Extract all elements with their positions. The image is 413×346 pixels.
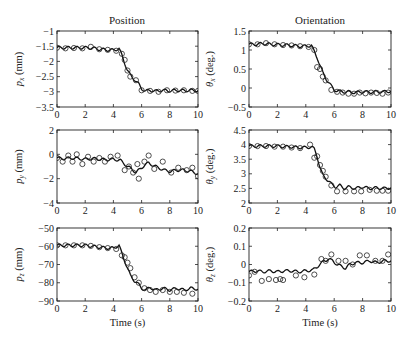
y-tick-label: 4 [241, 139, 246, 150]
data-point-measured [91, 159, 96, 164]
y-tick-label: 0 [241, 259, 246, 270]
data-point-measured [136, 176, 141, 181]
panel-px: 0246810−1−1.5−2−2.5−3−3.5px (mm) [13, 26, 203, 121]
y-tick-label: −2 [43, 56, 54, 67]
x-tick-label: 6 [332, 205, 337, 216]
data-point-measured [380, 188, 385, 193]
data-point-measured [135, 161, 140, 166]
data-point-measured [115, 153, 120, 158]
data-point-measured [346, 91, 351, 96]
y-tick-label: −3 [43, 86, 54, 97]
y-tick-label: −70 [38, 259, 54, 270]
x-tick-label: 8 [167, 303, 172, 314]
x-tick-label: 6 [139, 303, 144, 314]
data-point-measured [176, 165, 181, 170]
x-tick-label: 8 [360, 303, 365, 314]
y-tick-label: −60 [38, 241, 54, 252]
y-tick-label: −1 [43, 26, 54, 37]
x-tick-label: 4 [303, 205, 308, 216]
x-axis-label: Time (s) [110, 317, 146, 329]
data-point-measured [307, 142, 312, 147]
column-title-orientation: Orientation [295, 14, 346, 26]
x-tick-label: 10 [193, 205, 203, 216]
figure: Position Orientation 0246810−1−1.5−2−2.5… [0, 0, 413, 346]
data-point-measured [160, 159, 165, 164]
y-tick-label: −50 [38, 223, 54, 234]
x-tick-label: 10 [386, 303, 396, 314]
data-point-measured [174, 289, 179, 294]
data-point-measured [152, 166, 157, 171]
y-tick-label: −4 [43, 198, 54, 209]
x-tick-label: 4 [111, 109, 116, 120]
x-tick-label: 4 [111, 303, 116, 314]
y-tick-label: 2.5 [234, 183, 247, 194]
data-point-measured [359, 189, 364, 194]
x-tick-label: 0 [55, 205, 60, 216]
y-axis-label: θz (deg.) [204, 246, 217, 282]
series-line-model [249, 43, 391, 94]
y-tick-label: 0.1 [234, 241, 247, 252]
data-point-measured [302, 275, 307, 280]
x-tick-label: 6 [332, 303, 337, 314]
y-tick-label: 3.5 [234, 154, 247, 165]
axes-frame [57, 228, 198, 301]
y-tick-label: −90 [38, 296, 54, 307]
x-tick-label: 2 [275, 109, 280, 120]
x-tick-label: 6 [139, 205, 144, 216]
x-tick-label: 0 [247, 109, 252, 120]
data-point-measured [334, 189, 339, 194]
panel-py: 024681020−2−4py (mm) [13, 125, 203, 217]
y-tick-label: 0.2 [234, 223, 247, 234]
y-tick-label: −2.5 [36, 71, 54, 82]
x-tick-label: 10 [193, 303, 203, 314]
panel-thy: 02468104.543.532.52θy (deg.) [204, 125, 396, 217]
x-tick-label: 0 [55, 109, 60, 120]
data-point-measured [125, 260, 130, 265]
y-tick-label: 2 [49, 125, 54, 136]
x-tick-label: 4 [303, 109, 308, 120]
data-point-measured [114, 246, 119, 251]
data-point-measured [153, 289, 158, 294]
x-tick-label: 6 [139, 109, 144, 120]
y-tick-label: 0.5 [234, 64, 247, 75]
data-point-measured [329, 252, 334, 257]
x-tick-label: 2 [83, 109, 88, 120]
data-point-measured [142, 159, 147, 164]
data-point-measured [74, 152, 79, 157]
x-tick-label: 4 [303, 303, 308, 314]
x-tick-label: 8 [167, 205, 172, 216]
y-tick-label: −0.5 [228, 102, 246, 113]
y-axis-label: pz (mm) [13, 247, 26, 283]
data-point-measured [146, 153, 151, 158]
y-tick-label: 4.5 [234, 125, 247, 136]
x-tick-label: 8 [360, 109, 365, 120]
y-tick-label: 1 [241, 45, 246, 56]
panel-thx: 02468101.510.50−0.5θx (deg.) [204, 26, 396, 121]
panel-thz: 02468100.20.10−0.1−0.2θz (deg.)Time (s) [204, 223, 396, 330]
x-tick-label: 10 [193, 109, 203, 120]
y-tick-label: 0 [241, 83, 246, 94]
data-point-measured [190, 291, 195, 296]
data-point-measured [364, 253, 369, 258]
x-tick-label: 0 [247, 303, 252, 314]
y-tick-label: −0.1 [228, 277, 246, 288]
panel-pz: 0246810−50−60−70−80−90pz (mm)Time (s) [13, 223, 203, 330]
x-tick-label: 10 [386, 109, 396, 120]
data-point-measured [132, 275, 137, 280]
column-title-position: Position [109, 14, 146, 26]
x-tick-label: 8 [167, 109, 172, 120]
x-tick-label: 2 [83, 303, 88, 314]
y-tick-label: 3 [241, 168, 246, 179]
y-axis-label: θx (deg.) [204, 51, 217, 87]
data-point-measured [343, 258, 348, 263]
axes-frame [57, 31, 198, 107]
data-point-measured [357, 253, 362, 258]
y-axis-label: px (mm) [13, 51, 26, 87]
y-tick-label: 2 [241, 198, 246, 209]
data-point-measured [312, 272, 317, 277]
axes-frame [249, 31, 391, 107]
series-line-model [57, 46, 198, 92]
y-tick-label: −2 [43, 173, 54, 184]
y-tick-label: −0.2 [228, 296, 246, 307]
data-point-measured [181, 290, 186, 295]
